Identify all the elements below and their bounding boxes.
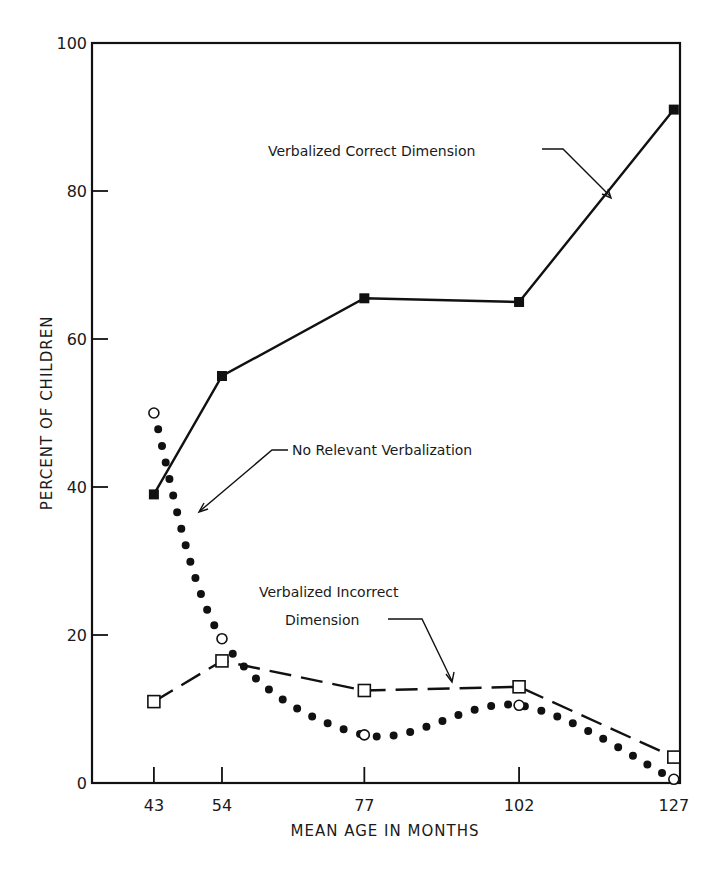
y-tick-label-40: 40 [67, 478, 87, 497]
marker-none-54 [217, 634, 227, 644]
y-axis-label: PERCENT OF CHILDREN [38, 316, 56, 511]
y-tick-label-80: 80 [67, 182, 87, 201]
marker-none-43 [149, 408, 159, 418]
annotation-arrow-none [200, 450, 288, 511]
marker-correct-54 [217, 371, 227, 381]
y-tick-label-0: 0 [77, 774, 87, 793]
marker-correct-127 [669, 105, 679, 115]
x-tick-label-77: 77 [354, 796, 374, 815]
marker-correct-102 [514, 297, 524, 307]
annotation-correct: Verbalized Correct Dimension [268, 143, 475, 159]
marker-none-77 [359, 730, 369, 740]
annotation-none: No Relevant Verbalization [292, 442, 472, 458]
y-tick-label-60: 60 [67, 330, 87, 349]
annotation-arrow-incorrect [388, 619, 452, 681]
line-chart: 020406080100 435477102127 PERCENT OF CHI… [0, 0, 723, 873]
marker-correct-43 [149, 489, 159, 499]
series-line-verbalized-incorrect [154, 661, 674, 757]
series-verbalized-incorrect [148, 655, 680, 763]
annotation-arrow-correct [542, 149, 610, 196]
y-axis-ticks: 020406080100 [56, 34, 108, 793]
marker-correct-77 [359, 293, 369, 303]
series-line-no-relevant [154, 413, 674, 779]
marker-incorrect-54 [216, 655, 228, 667]
marker-none-102 [514, 700, 524, 710]
series-no-relevant [149, 408, 679, 784]
x-axis-ticks: 435477102127 [144, 767, 689, 815]
marker-incorrect-102 [513, 681, 525, 693]
series-verbalized-correct [149, 105, 679, 500]
x-axis-label: MEAN AGE IN MONTHS [291, 822, 480, 840]
marker-incorrect-77 [358, 685, 370, 697]
annotation-incorrect-line2: Dimension [285, 612, 359, 628]
series-line-verbalized-correct [154, 110, 674, 495]
y-tick-label-20: 20 [67, 626, 87, 645]
marker-none-127 [669, 774, 679, 784]
x-tick-label-54: 54 [212, 796, 232, 815]
x-tick-label-102: 102 [504, 796, 535, 815]
marker-incorrect-127 [668, 751, 680, 763]
y-tick-label-100: 100 [56, 34, 87, 53]
marker-incorrect-43 [148, 696, 160, 708]
x-tick-label-43: 43 [144, 796, 164, 815]
x-tick-label-127: 127 [659, 796, 690, 815]
annotation-incorrect-line1: Verbalized Incorrect [259, 584, 399, 600]
